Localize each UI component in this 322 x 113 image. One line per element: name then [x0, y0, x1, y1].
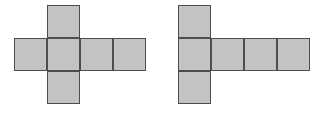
- right-cube-net-top-square: [178, 5, 211, 38]
- right-cube-net-row-square-4: [277, 38, 310, 71]
- right-cube-net-bottom-square: [178, 71, 211, 104]
- right-cube-net-row-square-1: [178, 38, 211, 71]
- diagram-canvas: [0, 0, 322, 113]
- right-cube-net-row-square-2: [211, 38, 244, 71]
- right-cube-net-row-square-3: [244, 38, 277, 71]
- right-cube-net: [0, 0, 322, 113]
